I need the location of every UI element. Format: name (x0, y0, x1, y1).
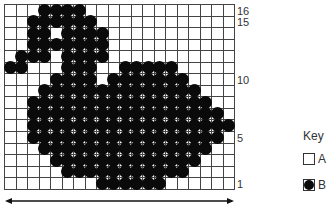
chart-cell-a (17, 167, 29, 179)
knitting-chart-grid (5, 5, 235, 190)
chart-cell-a (17, 178, 29, 190)
chart-cell-a (120, 40, 132, 52)
chart-cell-a (224, 167, 236, 179)
chart-cell-a (201, 5, 213, 17)
chart-cell-a (224, 17, 236, 29)
key-label-b: B (318, 179, 326, 191)
chart-cell-a (201, 167, 213, 179)
row-label-16: 16 (237, 6, 249, 17)
chart-cell-a (189, 28, 201, 40)
chart-cell-a (201, 17, 213, 29)
chart-cell-a (212, 51, 224, 63)
chart-cell-a (155, 17, 167, 29)
chart-cell-a (224, 5, 236, 17)
chart-cell-b (224, 120, 236, 132)
chart-cell-a (212, 28, 224, 40)
chart-cell-a (178, 28, 190, 40)
chart-cell-a (17, 144, 29, 156)
chart-cell-a (132, 28, 144, 40)
chart-cell-a (224, 144, 236, 156)
chart-cell-a (143, 5, 155, 17)
chart-cell-a (120, 5, 132, 17)
chart-cell-a (120, 28, 132, 40)
row-label-15: 15 (237, 17, 249, 28)
width-double-arrow-icon (5, 198, 234, 204)
row-label-10: 10 (237, 75, 249, 86)
chart-cell-a (5, 97, 17, 109)
chart-cell-a (212, 40, 224, 52)
chart-cell-a (212, 17, 224, 29)
chart-cell-a (28, 63, 40, 75)
chart-cell-a (109, 28, 121, 40)
filled-circle-icon (303, 179, 315, 191)
chart-cell-a (189, 40, 201, 52)
chart-cell-a (166, 28, 178, 40)
chart-cell-a (201, 28, 213, 40)
chart-cell-a (166, 178, 178, 190)
chart-cell-b (189, 155, 201, 167)
chart-cell-a (109, 40, 121, 52)
chart-cell-a (189, 51, 201, 63)
chart-cell-a (178, 17, 190, 29)
chart-cell-a (97, 63, 109, 75)
chart-cell-a (224, 51, 236, 63)
chart-cell-a (63, 178, 75, 190)
empty-square-icon (303, 153, 315, 165)
chart-cell-b (212, 132, 224, 144)
key-item-a: A (303, 153, 326, 165)
chart-cell-a (189, 17, 201, 29)
chart-cell-a (109, 17, 121, 29)
chart-cell-a (178, 40, 190, 52)
chart-cell-a (212, 5, 224, 17)
chart-cell-a (212, 155, 224, 167)
chart-cell-a (5, 5, 17, 17)
chart-cell-b (201, 144, 213, 156)
chart-cell-a (5, 86, 17, 98)
chart-cell-a (28, 155, 40, 167)
chart-cell-a (5, 155, 17, 167)
chart-cell-a (189, 63, 201, 75)
chart-cell-a (132, 40, 144, 52)
chart-cell-a (132, 5, 144, 17)
chart-cell-a (17, 155, 29, 167)
chart-cell-a (201, 178, 213, 190)
chart-cell-a (97, 5, 109, 17)
chart-cell-a (212, 86, 224, 98)
row-label-5: 5 (237, 133, 243, 144)
chart-cell-a (166, 40, 178, 52)
chart-cell-a (143, 28, 155, 40)
key-title: Key (303, 129, 324, 143)
chart-cell-a (5, 120, 17, 132)
chart-cell-a (28, 178, 40, 190)
chart-cell-a (224, 63, 236, 75)
chart-cell-a (155, 28, 167, 40)
chart-cell-a (224, 155, 236, 167)
chart-cell-a (201, 155, 213, 167)
chart-cell-b (17, 63, 29, 75)
chart-cell-a (143, 17, 155, 29)
chart-cell-a (201, 74, 213, 86)
chart-cell-a (166, 5, 178, 17)
chart-cell-a (201, 40, 213, 52)
chart-cell-a (178, 51, 190, 63)
chart-cell-a (178, 5, 190, 17)
chart-cell-a (5, 109, 17, 121)
chart-cell-a (212, 63, 224, 75)
chart-cell-a (5, 28, 17, 40)
chart-cell-a (40, 167, 52, 179)
chart-cell-a (212, 178, 224, 190)
chart-cell-a (224, 178, 236, 190)
chart-cell-b (97, 51, 109, 63)
chart-cell-a (189, 178, 201, 190)
chart-cell-a (201, 63, 213, 75)
chart-cell-a (224, 28, 236, 40)
chart-cell-a (40, 178, 52, 190)
row-label-1: 1 (237, 179, 243, 190)
chart-cell-a (5, 167, 17, 179)
chart-cell-a (189, 167, 201, 179)
chart-cell-a (109, 5, 121, 17)
chart-cell-a (224, 132, 236, 144)
chart-cell-a (132, 17, 144, 29)
chart-cell-a (17, 86, 29, 98)
chart-cell-a (5, 144, 17, 156)
